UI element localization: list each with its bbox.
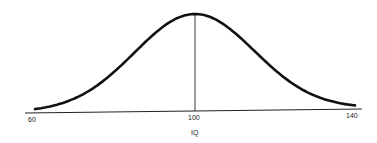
x-tick-140: 140 <box>346 112 358 119</box>
x-tick-100: 100 <box>188 114 200 121</box>
x-tick-60: 60 <box>28 116 36 123</box>
bell-curve-chart <box>0 0 377 143</box>
x-axis-line <box>25 109 362 113</box>
x-axis-title: IQ <box>191 129 198 136</box>
